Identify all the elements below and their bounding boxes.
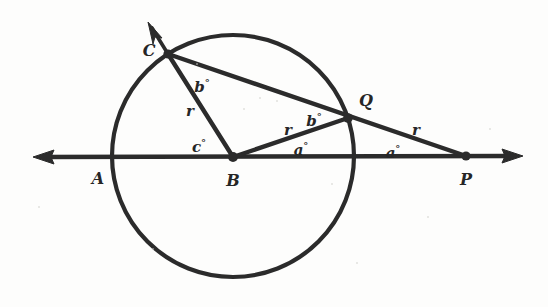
- measure-text: b: [306, 112, 317, 130]
- measure-text: a: [386, 144, 396, 162]
- measure-label-angle-qbp: a°: [294, 140, 309, 159]
- paper-speck: [243, 108, 245, 110]
- horizontal-line-apb: [44, 156, 512, 157]
- measure-text: r: [186, 102, 194, 120]
- degree-symbol-icon: °: [303, 140, 308, 151]
- point-dot-q: [343, 113, 353, 123]
- measure-text: r: [412, 121, 420, 139]
- measure-text: a: [294, 141, 304, 159]
- arrow-right-horizontal-icon: [502, 149, 523, 163]
- paper-speck: [276, 100, 278, 102]
- degree-symbol-icon: °: [395, 143, 400, 154]
- degree-symbol-icon: °: [317, 111, 322, 122]
- point-dot-b: [228, 152, 238, 162]
- paper-speck: [331, 183, 333, 185]
- measure-text: b: [194, 78, 205, 96]
- paper-speck: [152, 248, 154, 250]
- measure-text: c: [192, 138, 201, 156]
- measure-label-angle-qpb: a°: [386, 143, 401, 162]
- measure-label-angle-bcq: b°: [194, 77, 210, 96]
- degree-symbol-icon: °: [205, 77, 210, 88]
- diagram-canvas: [0, 0, 548, 307]
- point-label-p: P: [460, 170, 472, 189]
- point-dot-p: [461, 151, 470, 160]
- paper-speck: [356, 262, 358, 264]
- measure-label-angle-cba: c°: [192, 137, 206, 156]
- arrow-left-horizontal-icon: [33, 150, 54, 164]
- paper-speck: [38, 206, 40, 208]
- point-label-q: Q: [359, 91, 373, 110]
- measure-label-radius-bc: r: [186, 101, 194, 120]
- paper-speck: [259, 97, 261, 99]
- paper-speck: [196, 63, 198, 65]
- measure-label-angle-bqc: b°: [306, 111, 322, 130]
- point-label-c: C: [143, 41, 156, 60]
- point-label-a: A: [92, 169, 104, 188]
- point-dot-c: [163, 49, 172, 58]
- measure-label-radius-qp: r: [412, 120, 420, 139]
- geometry-diagram: A B C Q P b° r c° r b° a° r a°: [0, 0, 548, 307]
- measure-label-radius-bq: r: [284, 120, 292, 139]
- measure-text: r: [284, 121, 292, 139]
- point-label-b: B: [226, 171, 240, 190]
- degree-symbol-icon: °: [201, 137, 206, 148]
- paper-speck: [489, 128, 491, 130]
- paper-speck: [427, 216, 429, 218]
